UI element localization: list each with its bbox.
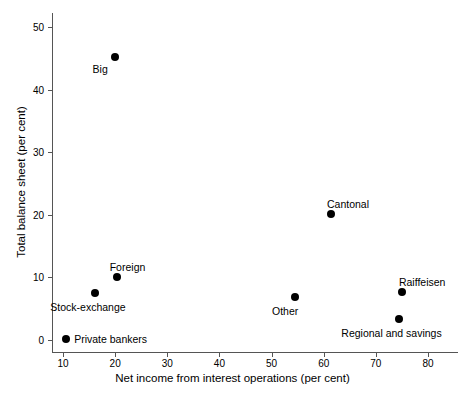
y-axis-tick-label: 10 [33,272,44,283]
x-axis-tick [115,353,116,357]
x-axis-tick-label: 20 [110,358,121,369]
x-axis-tick-label: 40 [214,358,225,369]
data-point-label: Raiffeisen [399,276,446,288]
x-axis-line [52,352,458,353]
data-point-label: Foreign [110,261,146,273]
x-axis-tick [324,353,325,357]
data-point-label: Stock-exchange [50,301,125,313]
x-axis-tick-label: 30 [162,358,173,369]
x-axis-tick-label: 70 [370,358,381,369]
data-point [62,335,70,343]
y-axis-tick-label: 20 [33,209,44,220]
y-axis-title: Total balance sheet (per cent) [15,22,27,342]
y-axis-tick-label: 40 [33,84,44,95]
data-point-label: Big [93,63,108,75]
x-axis-tick [63,353,64,357]
x-axis-tick-label: 10 [57,358,68,369]
x-axis-tick-label: 50 [266,358,277,369]
x-axis-tick [272,353,273,357]
y-axis-tick-label: 0 [38,335,44,346]
data-point [111,53,119,61]
data-point-label: Regional and savings [341,327,441,339]
x-axis-tick [428,353,429,357]
y-axis-tick-label: 30 [33,147,44,158]
x-axis-tick [376,353,377,357]
x-axis-tick [167,353,168,357]
data-point-label: Other [272,305,298,317]
scatter-plot-figure: 1020304050607080 01020304050 Net income … [0,0,465,394]
x-axis-tick-label: 60 [318,358,329,369]
x-axis-title: Net income from interest operations (per… [0,372,465,384]
data-point-label: Private bankers [74,333,147,345]
data-point [395,315,403,323]
data-point-label: Cantonal [327,198,369,210]
x-axis-tick-label: 80 [422,358,433,369]
x-axis-tick [219,353,220,357]
y-axis-tick-label: 50 [33,22,44,33]
data-point [398,288,406,296]
